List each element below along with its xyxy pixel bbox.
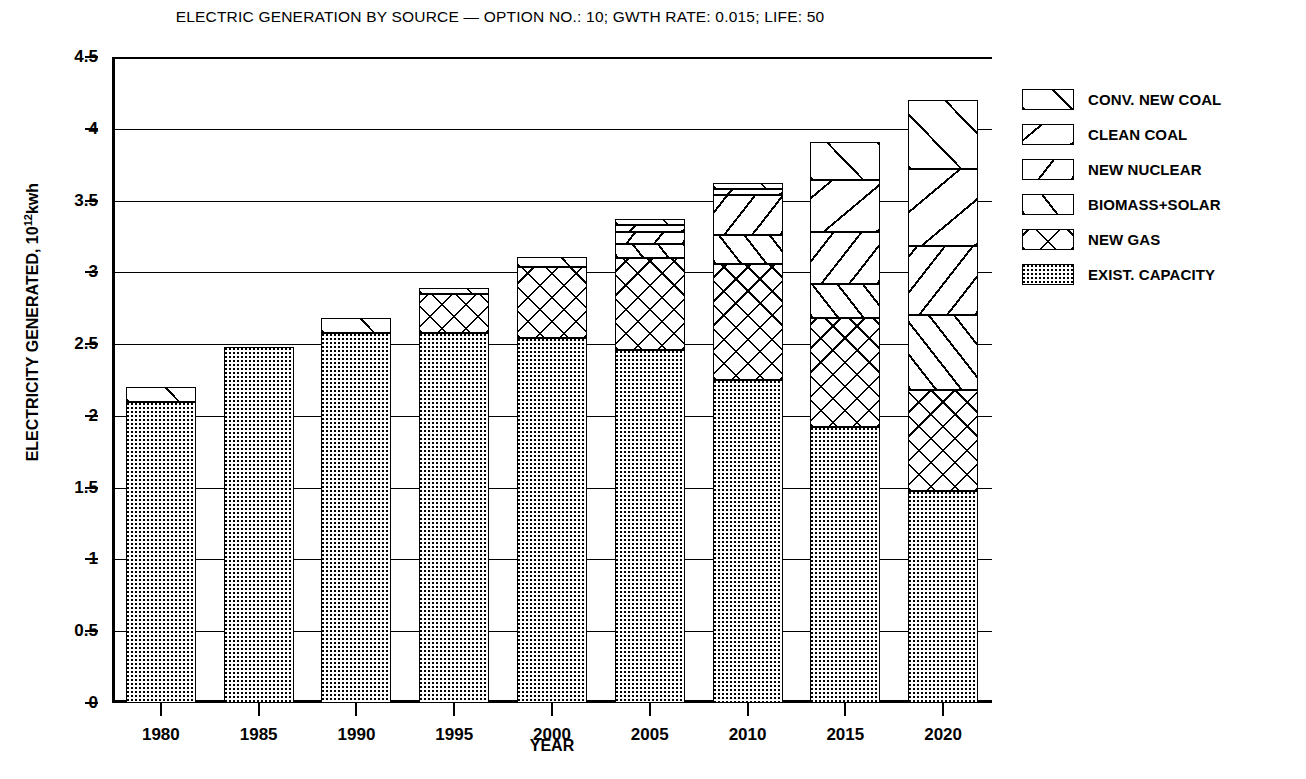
y-axis-labels: 00.511.522.533.544.5 bbox=[0, 57, 98, 703]
bar-segment[interactable] bbox=[419, 288, 489, 294]
chart-title: ELECTRIC GENERATION BY SOURCE — OPTION N… bbox=[0, 8, 1000, 26]
legend-swatch-icon bbox=[1022, 89, 1074, 110]
chart-page: ELECTRIC GENERATION BY SOURCE — OPTION N… bbox=[0, 0, 1306, 779]
legend-item[interactable]: EXIST. CAPACITY bbox=[1022, 259, 1306, 290]
x-axis-tick-mark bbox=[942, 703, 944, 716]
bar-segment[interactable] bbox=[810, 232, 880, 284]
x-axis-tick-mark bbox=[453, 703, 455, 716]
y-axis-tick-mark bbox=[85, 630, 98, 632]
bar-stack[interactable] bbox=[321, 57, 391, 703]
legend-item[interactable]: CLEAN COAL bbox=[1022, 119, 1306, 150]
bar-segment[interactable] bbox=[615, 219, 685, 225]
x-axis-tick-mark bbox=[747, 703, 749, 716]
bar-segment[interactable] bbox=[810, 180, 880, 232]
bar-segment[interactable] bbox=[713, 264, 783, 380]
legend-swatch-icon bbox=[1022, 124, 1074, 145]
legend-item[interactable]: CONV. NEW COAL bbox=[1022, 84, 1306, 115]
legend-swatch-icon bbox=[1022, 229, 1074, 250]
x-axis-tick-mark bbox=[551, 703, 553, 716]
legend-item[interactable]: BIOMASS+SOLAR bbox=[1022, 189, 1306, 220]
bar-stack[interactable] bbox=[126, 57, 196, 703]
bar-segment[interactable] bbox=[126, 402, 196, 703]
y-axis-tick-mark bbox=[85, 128, 98, 130]
legend-item-label: NEW NUCLEAR bbox=[1088, 161, 1202, 178]
y-axis-tick-mark bbox=[85, 702, 98, 704]
bar-segment[interactable] bbox=[810, 284, 880, 318]
bar-segment[interactable] bbox=[713, 380, 783, 703]
x-axis-tick-mark bbox=[844, 703, 846, 716]
bar-segment[interactable] bbox=[908, 315, 978, 390]
bar-segment[interactable] bbox=[713, 183, 783, 189]
legend-item-label: BIOMASS+SOLAR bbox=[1088, 196, 1221, 213]
bar-segment[interactable] bbox=[908, 169, 978, 247]
bar-segment[interactable] bbox=[517, 267, 587, 339]
bar-segment[interactable] bbox=[419, 294, 489, 333]
bar-segment[interactable] bbox=[615, 244, 685, 258]
y-axis-tick-mark bbox=[85, 200, 98, 202]
x-axis-title: YEAR bbox=[112, 737, 992, 755]
bar-segment[interactable] bbox=[615, 258, 685, 350]
bar-segment[interactable] bbox=[517, 338, 587, 703]
bar-segment[interactable] bbox=[810, 318, 880, 427]
bar-segment[interactable] bbox=[908, 100, 978, 169]
legend-item[interactable]: NEW GAS bbox=[1022, 224, 1306, 255]
bar-stack[interactable] bbox=[419, 57, 489, 703]
y-axis-tick-mark bbox=[85, 487, 98, 489]
bar-stack[interactable] bbox=[615, 57, 685, 703]
legend-swatch-icon bbox=[1022, 194, 1074, 215]
bar-segment[interactable] bbox=[517, 257, 587, 267]
bar-stack[interactable] bbox=[517, 57, 587, 703]
bar-stack[interactable] bbox=[713, 57, 783, 703]
legend-swatch-icon bbox=[1022, 159, 1074, 180]
bar-segment[interactable] bbox=[713, 235, 783, 264]
bar-segment[interactable] bbox=[810, 427, 880, 703]
legend-swatch-icon bbox=[1022, 264, 1074, 285]
x-axis-tick-mark bbox=[355, 703, 357, 716]
bar-segment[interactable] bbox=[321, 333, 391, 703]
plot-area: 198019851990199520002005201020152020 bbox=[112, 57, 992, 703]
legend-item-label: EXIST. CAPACITY bbox=[1088, 266, 1215, 283]
bar-segment[interactable] bbox=[908, 246, 978, 315]
legend-item-label: NEW GAS bbox=[1088, 231, 1160, 248]
legend-item-label: CLEAN COAL bbox=[1088, 126, 1187, 143]
chart-legend: CONV. NEW COALCLEAN COALNEW NUCLEARBIOMA… bbox=[1022, 84, 1306, 294]
bar-segment[interactable] bbox=[908, 491, 978, 703]
y-axis-tick-mark bbox=[85, 343, 98, 345]
x-axis-tick-mark bbox=[160, 703, 162, 716]
x-axis-tick-mark bbox=[258, 703, 260, 716]
y-axis-tick-mark bbox=[85, 271, 98, 273]
bar-segment[interactable] bbox=[908, 390, 978, 490]
x-axis-tick-mark bbox=[649, 703, 651, 716]
bar-segment[interactable] bbox=[615, 232, 685, 243]
y-axis-tick-mark bbox=[85, 415, 98, 417]
bar-segment[interactable] bbox=[126, 387, 196, 401]
bar-segment[interactable] bbox=[321, 318, 391, 332]
bar-stack[interactable] bbox=[810, 57, 880, 703]
bar-segment[interactable] bbox=[713, 189, 783, 195]
bar-segment[interactable] bbox=[615, 225, 685, 232]
bar-segment[interactable] bbox=[419, 333, 489, 703]
bar-segment[interactable] bbox=[713, 195, 783, 235]
bar-segment[interactable] bbox=[224, 347, 294, 703]
y-axis-tick-mark bbox=[85, 56, 98, 58]
y-axis-tick-mark bbox=[85, 558, 98, 560]
bar-stack[interactable] bbox=[908, 57, 978, 703]
legend-item-label: CONV. NEW COAL bbox=[1088, 91, 1221, 108]
bar-segment[interactable] bbox=[615, 350, 685, 703]
legend-item[interactable]: NEW NUCLEAR bbox=[1022, 154, 1306, 185]
bar-stack[interactable] bbox=[224, 57, 294, 703]
bar-segment[interactable] bbox=[810, 142, 880, 181]
